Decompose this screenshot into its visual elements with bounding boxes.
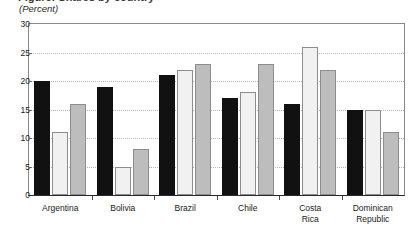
x-axis-tick-label: Chile xyxy=(217,203,280,214)
y-axis-tick-label: 10 xyxy=(4,133,30,143)
y-axis-tick-mark xyxy=(28,110,32,111)
y-axis-tick-mark xyxy=(28,81,32,82)
bar xyxy=(347,110,363,196)
y-axis-tick-label: 15 xyxy=(4,105,30,115)
bar xyxy=(115,167,131,196)
bar-group xyxy=(217,24,280,195)
bar xyxy=(159,75,175,195)
bar xyxy=(258,64,274,195)
y-axis-tick-label: 5 xyxy=(4,162,30,172)
y-axis-unit-label: (Percent) xyxy=(19,3,58,14)
x-axis-tick-mark xyxy=(92,196,93,200)
x-axis-tick-label: Costa Rica xyxy=(279,203,342,225)
bar xyxy=(302,47,318,195)
y-axis-tick-label: 30 xyxy=(4,19,30,29)
bar xyxy=(177,70,193,195)
bar-group xyxy=(29,24,92,195)
bar xyxy=(222,98,238,195)
bar xyxy=(365,110,381,196)
x-axis-tick-mark xyxy=(342,196,343,200)
y-axis-tick-mark xyxy=(28,53,32,54)
x-axis-tick-mark xyxy=(279,196,280,200)
bar xyxy=(34,81,50,195)
bar xyxy=(284,104,300,195)
bar-chart-figure: Figure: Shares by country (Percent) 0510… xyxy=(0,0,413,244)
x-axis-tick-label: Argentina xyxy=(29,203,92,214)
bar xyxy=(383,132,399,195)
bar-group xyxy=(279,24,342,195)
bar xyxy=(320,70,336,195)
bar xyxy=(52,132,68,195)
y-axis-tick-label: 20 xyxy=(4,76,30,86)
cropped-title-strip: Figure: Shares by country xyxy=(0,0,413,5)
bar xyxy=(70,104,86,195)
x-axis-tick-label: Bolivia xyxy=(92,203,155,214)
bar xyxy=(240,92,256,195)
bar xyxy=(97,87,113,195)
y-axis-tick-mark xyxy=(28,138,32,139)
y-axis-tick-mark xyxy=(28,167,32,168)
bar xyxy=(133,149,149,195)
x-axis-tick-label: Brazil xyxy=(154,203,217,214)
bar-group xyxy=(154,24,217,195)
bar xyxy=(195,64,211,195)
bar-group xyxy=(342,24,405,195)
x-axis-tick-label: Dominican Republic xyxy=(342,203,405,225)
bar-group xyxy=(92,24,155,195)
x-axis-tick-mark xyxy=(154,196,155,200)
plot-area xyxy=(28,23,405,196)
x-axis-tick-mark xyxy=(217,196,218,200)
y-axis-tick-label: 0 xyxy=(4,190,30,200)
y-axis-tick-label: 25 xyxy=(4,48,30,58)
